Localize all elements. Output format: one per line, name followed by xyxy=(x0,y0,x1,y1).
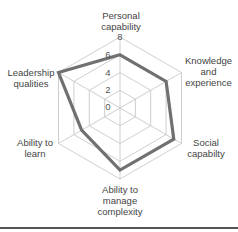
tick-label-6: 6 xyxy=(101,49,115,60)
tick-label-4: 4 xyxy=(101,67,115,78)
bottom-divider xyxy=(0,227,238,229)
tick-label-8: 8 xyxy=(113,31,127,42)
axis-label-social-capability: Social capabilty xyxy=(181,137,231,159)
tick-label-2: 2 xyxy=(101,84,115,95)
axis-label-personal-capability: Personal capability xyxy=(96,10,146,32)
radar-grid xyxy=(59,37,182,179)
axis-label-ability-to-learn: Ability to learn xyxy=(10,137,60,159)
axis-label-ability-to-manage-complexity: Ability to manage complexity xyxy=(95,184,145,217)
axis-label-leadership-qualities: Leadership qualities xyxy=(2,67,60,89)
tick-label-0: 0 xyxy=(101,101,115,112)
series-polygon xyxy=(59,55,174,170)
axis-label-knowledge-and-experience: Knowledge and experience xyxy=(181,55,236,88)
